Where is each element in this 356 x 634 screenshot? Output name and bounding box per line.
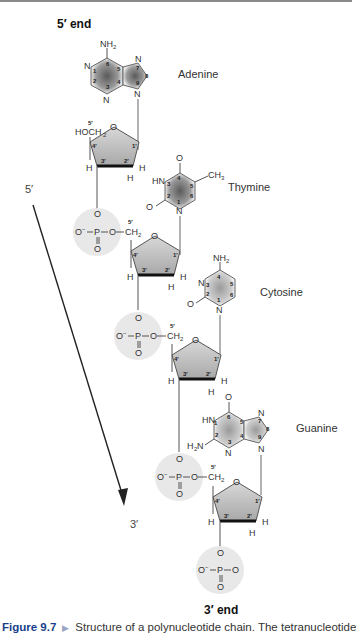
svg-text:O: O bbox=[192, 335, 199, 345]
svg-text:2: 2 bbox=[226, 258, 230, 264]
direction-end-label: 3′ bbox=[130, 518, 138, 530]
svg-text:1′: 1′ bbox=[255, 498, 260, 504]
phosphate-3: O O− P O O CH2 5′ bbox=[155, 453, 225, 501]
svg-text:2: 2 bbox=[180, 336, 184, 342]
svg-text:−: − bbox=[205, 564, 209, 570]
svg-text:O: O bbox=[94, 209, 101, 219]
svg-text:O: O bbox=[157, 472, 164, 482]
svg-text:2′: 2′ bbox=[124, 158, 129, 164]
svg-text:1′: 1′ bbox=[214, 356, 219, 362]
svg-text:CH: CH bbox=[208, 472, 221, 482]
phosphate-3prime: O O− P O O bbox=[196, 546, 244, 594]
svg-text:O: O bbox=[176, 489, 183, 499]
svg-text:O: O bbox=[94, 244, 101, 254]
three-prime-end-label: 3′ end bbox=[204, 603, 238, 617]
svg-text:H: H bbox=[180, 272, 187, 282]
cytosine-label: Cytosine bbox=[260, 286, 303, 298]
svg-text:H: H bbox=[127, 173, 134, 183]
svg-text:O: O bbox=[151, 231, 158, 241]
svg-text:5′: 5′ bbox=[211, 464, 216, 470]
sugar-1: O HOCH2 5′ 4′1′ 3′2′ HH H bbox=[75, 120, 146, 210]
svg-text:H: H bbox=[208, 517, 215, 527]
svg-text:H: H bbox=[221, 376, 228, 386]
svg-text:P: P bbox=[217, 565, 223, 575]
phosphate-1: O O− P O O CH2 5′ bbox=[73, 208, 142, 256]
svg-text:H: H bbox=[168, 282, 175, 292]
svg-text:CH: CH bbox=[125, 227, 138, 237]
svg-text:P: P bbox=[135, 331, 141, 341]
svg-text:NH: NH bbox=[100, 39, 113, 49]
svg-text:2: 2 bbox=[221, 477, 225, 483]
svg-text:2′: 2′ bbox=[247, 513, 252, 519]
svg-text:2′: 2′ bbox=[206, 371, 211, 377]
svg-text:NH: NH bbox=[213, 253, 226, 263]
svg-text:N: N bbox=[197, 441, 204, 451]
direction-start-label: 5′ bbox=[25, 183, 33, 195]
svg-text:3′: 3′ bbox=[142, 267, 147, 273]
svg-text:N: N bbox=[135, 54, 142, 64]
svg-text:N: N bbox=[216, 305, 223, 315]
guanine-label: Guanine bbox=[296, 422, 338, 434]
svg-text:O: O bbox=[176, 153, 183, 163]
adenine-label: Adenine bbox=[178, 68, 218, 80]
svg-text:5′: 5′ bbox=[170, 323, 175, 329]
svg-text:N: N bbox=[134, 89, 141, 99]
five-prime-end-label: 5′ end bbox=[57, 17, 91, 31]
svg-text:P: P bbox=[176, 472, 182, 482]
svg-text:O: O bbox=[187, 299, 194, 309]
svg-text:8: 8 bbox=[266, 426, 270, 432]
svg-text:N: N bbox=[225, 448, 232, 458]
polynucleotide-diagram: NH2 N N N N 61 23 45 78 9 O HOCH2 5′ 4′1… bbox=[0, 0, 352, 620]
svg-text:N: N bbox=[198, 278, 205, 288]
svg-text:3′: 3′ bbox=[101, 158, 106, 164]
svg-text:2′: 2′ bbox=[165, 267, 170, 273]
svg-text:4′: 4′ bbox=[133, 252, 138, 258]
svg-text:O: O bbox=[225, 392, 232, 402]
svg-text:H: H bbox=[262, 517, 269, 527]
svg-text:1′: 1′ bbox=[132, 143, 137, 149]
svg-text:N: N bbox=[176, 206, 183, 216]
svg-text:O: O bbox=[116, 331, 123, 341]
sugar-4: O 4′1′ 3′2′ HH H bbox=[208, 477, 269, 548]
svg-text:O: O bbox=[110, 122, 117, 132]
svg-text:−: − bbox=[164, 471, 168, 477]
svg-text:N: N bbox=[258, 444, 265, 454]
svg-text:2: 2 bbox=[138, 232, 142, 238]
svg-text:HN: HN bbox=[152, 176, 165, 186]
svg-text:H: H bbox=[187, 441, 194, 451]
svg-text:8: 8 bbox=[145, 73, 149, 79]
svg-text:2: 2 bbox=[113, 44, 117, 50]
svg-text:O: O bbox=[135, 313, 142, 323]
caption-triangle-icon: ▶ bbox=[62, 623, 69, 633]
svg-text:O: O bbox=[232, 565, 239, 575]
svg-text:O: O bbox=[109, 227, 116, 237]
svg-text:O: O bbox=[135, 348, 142, 358]
svg-text:N: N bbox=[103, 95, 110, 105]
svg-text:H: H bbox=[127, 272, 134, 282]
svg-text:O: O bbox=[198, 565, 205, 575]
svg-text:CH: CH bbox=[208, 170, 221, 180]
svg-text:N: N bbox=[258, 408, 265, 418]
svg-text:H: H bbox=[86, 163, 93, 173]
svg-text:5′: 5′ bbox=[128, 219, 133, 225]
svg-text:P: P bbox=[94, 227, 100, 237]
svg-text:H: H bbox=[249, 528, 256, 538]
thymine-label: Thymine bbox=[228, 181, 270, 193]
svg-text:3′: 3′ bbox=[183, 371, 188, 377]
svg-text:O: O bbox=[233, 477, 240, 487]
svg-text:O: O bbox=[217, 582, 224, 592]
svg-text:HOCH: HOCH bbox=[75, 127, 102, 137]
svg-text:−: − bbox=[123, 330, 127, 336]
figure-number: Figure 9.7 bbox=[2, 621, 56, 633]
svg-text:O: O bbox=[146, 202, 153, 212]
caption-text: Structure of a polynucleotide chain. The… bbox=[75, 621, 356, 633]
svg-text:−: − bbox=[82, 226, 86, 232]
svg-text:O: O bbox=[217, 548, 224, 558]
svg-text:O: O bbox=[176, 454, 183, 464]
sugar-2: O 4′1′ 3′2′ HH H bbox=[127, 231, 187, 310]
svg-text:H: H bbox=[208, 387, 215, 397]
svg-text:1′: 1′ bbox=[173, 252, 178, 258]
svg-text:4′: 4′ bbox=[174, 356, 179, 362]
svg-text:4′: 4′ bbox=[215, 498, 220, 504]
svg-text:N: N bbox=[84, 61, 91, 71]
